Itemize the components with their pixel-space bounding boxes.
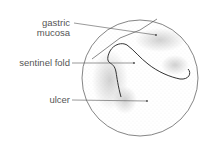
label-mucosa: mucosa bbox=[30, 28, 70, 38]
gastric-mucosa-pointer-dot bbox=[155, 34, 157, 36]
ulcer-pointer-dot bbox=[146, 100, 148, 102]
sentinel-fold-pointer-dot bbox=[133, 62, 135, 64]
label-sentinel-fold: sentinel fold bbox=[2, 58, 70, 68]
stippled-mucosa-texture bbox=[80, 18, 200, 138]
label-gastric-mucosa: gastric mucosa bbox=[30, 18, 70, 38]
label-ulcer: ulcer bbox=[30, 95, 70, 105]
